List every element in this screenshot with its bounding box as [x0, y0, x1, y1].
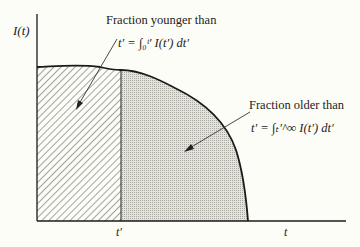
- younger-formula: t′ = ∫₀ᵗ′ I(t′) dt′: [118, 36, 189, 51]
- younger-fraction-region: [37, 65, 121, 221]
- older-formula: t′ = ∫ₜ′^∞ I(t′) dt′: [251, 120, 334, 136]
- older-caption: Fraction older than: [249, 98, 344, 113]
- x-tick-t-prime: t′: [116, 225, 122, 240]
- younger-caption: Fraction younger than: [106, 13, 216, 28]
- x-axis-label: t: [284, 225, 287, 240]
- y-axis-label: I(t): [13, 23, 30, 39]
- age-distribution-diagram: I(t) Fraction younger than t′ = ∫₀ᵗ′ I(t…: [0, 0, 360, 247]
